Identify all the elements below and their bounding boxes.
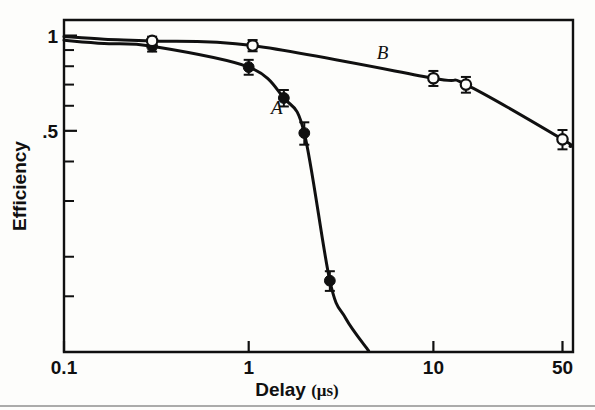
y-tick-label: 1 — [47, 26, 58, 47]
x-axis-unit: (μs) — [311, 381, 339, 400]
y-tick-label: .5 — [42, 121, 58, 142]
frame-border — [64, 20, 573, 352]
marker-filled-circle — [324, 275, 335, 286]
plot-frame — [64, 20, 573, 352]
x-tick-label: 50 — [552, 357, 573, 378]
marker-open-circle — [557, 134, 567, 144]
marker-open-circle — [461, 79, 471, 89]
data-point — [147, 36, 157, 46]
y-axis-title: Efficiency — [9, 141, 30, 231]
x-axis-title-text: Delay — [255, 379, 311, 400]
curve-label-A: A — [269, 97, 283, 118]
series-A — [64, 40, 369, 350]
data-point — [461, 77, 471, 93]
data-point — [247, 40, 257, 51]
marker-open-circle — [247, 40, 257, 50]
data-point — [557, 130, 567, 149]
x-axis-ticks — [64, 341, 562, 352]
x-tick-label: 1 — [243, 357, 254, 378]
marker-open-circle — [147, 36, 157, 46]
data-point — [428, 71, 438, 86]
marker-filled-circle — [299, 128, 310, 139]
series-line-B — [64, 37, 572, 147]
marker-open-circle — [428, 73, 438, 83]
figure-panel: 0.111050 1.5 AB Delay (μs) Efficiency — [0, 0, 595, 410]
efficiency-vs-delay-chart: 0.111050 1.5 AB Delay (μs) Efficiency — [0, 0, 595, 410]
series-B — [64, 36, 572, 150]
x-axis-tick-labels: 0.111050 — [51, 357, 573, 378]
series-line-A — [64, 40, 369, 350]
x-tick-label: 0.1 — [51, 357, 78, 378]
marker-filled-circle — [243, 62, 254, 73]
x-tick-label: 10 — [423, 357, 444, 378]
data-point — [324, 271, 335, 291]
y-axis-tick-labels: 1.5 — [42, 26, 58, 142]
data-point — [243, 60, 254, 75]
data-point — [299, 122, 310, 144]
curve-label-B: B — [377, 42, 389, 63]
y-axis-ticks — [64, 36, 77, 297]
data-series-layer — [64, 36, 572, 351]
x-axis-title: Delay (μs) — [255, 379, 339, 400]
